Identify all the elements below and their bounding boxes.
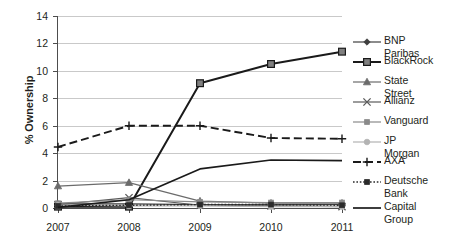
legend-swatch-square: [352, 54, 382, 70]
data-point-square: [339, 48, 346, 55]
data-point-small-square: [269, 202, 274, 207]
data-point-diamond: [364, 39, 370, 45]
data-point-plus: [267, 134, 275, 142]
legend-swatch-x: [352, 94, 382, 110]
legend-swatch-none: [352, 200, 382, 216]
legend-swatch-small-square: [352, 174, 382, 190]
data-point-small-square: [340, 203, 345, 208]
data-point-square: [268, 61, 275, 68]
data-point-small-square: [127, 203, 132, 208]
legend-label: Capital Group: [384, 200, 416, 226]
data-point-small-square: [365, 180, 370, 185]
data-point-plus: [54, 143, 62, 151]
data-point-small-square: [365, 120, 370, 125]
data-point-plus: [338, 135, 346, 143]
legend-label: AXA: [384, 154, 405, 167]
legend-label: Allianz: [384, 94, 415, 107]
legend-swatch-plus: [352, 154, 382, 170]
legend-label: Vanguard: [384, 114, 428, 127]
data-point-triangle: [125, 179, 132, 186]
legend-label: Deutsche Bank: [384, 174, 428, 200]
legend-swatch-circle: [352, 134, 382, 150]
data-point-square: [364, 59, 371, 66]
data-point-plus: [125, 122, 133, 130]
legend-swatch-triangle: [352, 74, 382, 90]
ownership-line-chart: % Ownership 02468101214 2007200820092010…: [0, 0, 464, 245]
data-point-small-square: [198, 202, 203, 207]
legend-swatch-small-square: [352, 114, 382, 130]
data-point-square: [197, 80, 204, 87]
data-point-circle: [364, 139, 370, 145]
data-point-plus: [363, 158, 371, 166]
data-point-plus: [196, 122, 204, 130]
legend-label: BlackRock: [384, 54, 433, 67]
legend-swatch-diamond: [352, 34, 382, 50]
